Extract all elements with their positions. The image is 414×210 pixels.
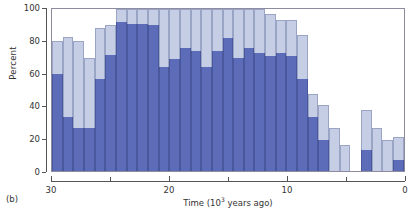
x-axis-title-main: Time (10 [183, 198, 221, 208]
bar-segment-upper [63, 37, 74, 117]
bar-segment-upper [340, 145, 351, 171]
bar [276, 9, 287, 171]
bar [340, 9, 351, 171]
bar-segment-lower [191, 51, 202, 171]
bar [137, 9, 148, 171]
bar-segment-lower [116, 22, 127, 171]
bar-segment-upper [244, 9, 255, 48]
bar-segment-upper [169, 9, 180, 59]
bar-segment-lower [180, 48, 191, 171]
bar [116, 9, 127, 171]
bar-segment-upper [318, 105, 329, 139]
bar-segment-lower [308, 117, 319, 171]
bar-segment-lower [318, 140, 329, 171]
bar-segment-upper [276, 20, 287, 53]
bar-segment-upper [212, 9, 223, 51]
bar-segment-lower [201, 67, 212, 171]
x-tick-mark-minor [346, 177, 347, 181]
bar [265, 9, 276, 171]
bar-segment-upper [265, 14, 276, 57]
bar-segment-upper [191, 9, 202, 51]
y-axis-title: Percent [8, 28, 18, 98]
x-tick-mark-major [51, 176, 52, 181]
y-tick-label: 20 [14, 135, 40, 144]
x-axis-title: Time (103 years ago) [51, 196, 405, 208]
bar [159, 9, 170, 171]
bar [308, 9, 319, 171]
bar [52, 9, 63, 171]
bar-segment-upper [223, 9, 234, 38]
bar-segment-upper [372, 128, 383, 171]
bar-segment-lower [233, 58, 244, 171]
bar [244, 9, 255, 171]
bar-segment-upper [329, 128, 340, 171]
x-axis-line [51, 181, 405, 182]
bar [372, 9, 383, 171]
bar [180, 9, 191, 171]
bar-segment-upper [180, 9, 191, 48]
bar-segment-upper [297, 35, 308, 79]
y-tick-label: 0 [14, 168, 40, 177]
bar-segment-lower [393, 160, 404, 171]
bar [393, 9, 404, 171]
bar-segment-upper [84, 58, 95, 129]
bar-segment-lower [52, 74, 63, 171]
bar [84, 9, 95, 171]
y-tick-mark [42, 41, 46, 42]
y-tick-mark [42, 8, 46, 9]
bar-segment-lower [105, 55, 116, 171]
bar-segment-lower [148, 25, 159, 171]
y-tick-mark [42, 139, 46, 140]
x-axis-title-tail: years ago) [225, 198, 273, 208]
bar [382, 9, 393, 171]
bar-segment-upper [116, 9, 127, 22]
plot-area [51, 8, 405, 172]
bar [254, 9, 265, 171]
bar-segment-lower [265, 56, 276, 171]
bar-segment-lower [137, 24, 148, 171]
panel-label: (b) [6, 194, 18, 204]
bar-series-container [52, 9, 404, 171]
bar-segment-lower [84, 128, 95, 171]
bar-segment-upper [254, 9, 265, 53]
bar-segment-upper [361, 110, 372, 149]
bar-segment-lower [73, 128, 84, 171]
bar [223, 9, 234, 171]
x-tick-mark-minor [110, 177, 111, 181]
bar-segment-upper [393, 137, 404, 160]
bar-segment-upper [73, 41, 84, 128]
bar [318, 9, 329, 171]
bar-segment-upper [95, 28, 106, 79]
bar-segment-upper [137, 9, 148, 24]
bar [201, 9, 212, 171]
bar [73, 9, 84, 171]
figure-panel-b: 100806040200 Percent 3020100 Time (103 y… [0, 0, 414, 210]
bar [233, 9, 244, 171]
bar [127, 9, 138, 171]
bar-segment-lower [244, 48, 255, 171]
bar [95, 9, 106, 171]
bar-segment-lower [212, 51, 223, 171]
bar [63, 9, 74, 171]
x-tick-label: 0 [390, 185, 414, 195]
bar-segment-upper [159, 9, 170, 67]
y-tick-label: 100 [14, 4, 40, 13]
x-tick-label: 10 [272, 185, 302, 195]
bar-segment-lower [286, 56, 297, 171]
bar-segment-lower [159, 67, 170, 171]
bar-segment-lower [127, 24, 138, 171]
bar-segment-upper [286, 20, 297, 56]
bar [212, 9, 223, 171]
bar-segment-upper [148, 9, 159, 25]
x-tick-mark-major [287, 176, 288, 181]
x-tick-label: 20 [154, 185, 184, 195]
bar [191, 9, 202, 171]
bar-segment-lower [276, 53, 287, 171]
y-tick-mark [42, 74, 46, 75]
bar-segment-lower [254, 53, 265, 171]
bar-segment-lower [95, 79, 106, 171]
x-tick-mark-major [405, 176, 406, 181]
bar [105, 9, 116, 171]
bar [350, 9, 361, 171]
y-tick-mark [42, 172, 46, 173]
